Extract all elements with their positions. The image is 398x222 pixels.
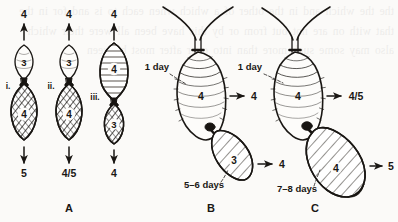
panel-b-main-body-label: 4 (198, 90, 204, 102)
panel-c: 4 1 day 4/5 4 7–8 days 5 C (238, 7, 394, 214)
panel-b-main-time-label: 1 day (145, 61, 170, 72)
panel-a-pair-iii: 4 4 3 iii. 4 (90, 8, 128, 179)
panel-b-bud-arrow-label: 4 (279, 158, 285, 170)
developmental-stages-diagram: 4 3 4 i. 5 4 3 (0, 0, 398, 222)
panel-c-letter: C (311, 202, 319, 214)
panel-a-pair-ii-top-label: 4 (66, 8, 72, 20)
panel-a: 4 3 4 i. 5 4 3 (6, 8, 128, 214)
panel-a-pair-iii-upper-label: 4 (111, 64, 117, 75)
panel-b-antenna-right (200, 7, 233, 40)
panel-a-letter: A (65, 202, 73, 214)
panel-a-pair-i-upper-label: 3 (21, 57, 26, 68)
panel-c-main-arrow-label: 4/5 (349, 90, 364, 102)
panel-a-pair-iii-roman-label: iii. (90, 92, 99, 102)
panel-c-main-time-label: 1 day (238, 61, 263, 72)
panel-a-pair-ii-lower-label: 4 (66, 109, 72, 120)
panel-b-bud-time-label: 5–6 days (184, 179, 224, 190)
panel-a-pair-ii-roman-label: ii. (47, 81, 54, 91)
panel-a-pair-i-lower-label: 4 (21, 109, 27, 120)
panel-a-pair-iii-bottom-label: 4 (111, 167, 117, 179)
panel-a-pair-ii: 4 3 4 ii. 4/5 (47, 8, 82, 179)
panel-a-pair-ii-bottom-label: 4/5 (62, 167, 77, 179)
panel-c-antenna-right (297, 7, 330, 40)
panel-a-pair-ii-upper-label: 3 (66, 57, 71, 68)
panel-b-main-arrow-label: 4 (251, 90, 257, 102)
panel-c-bud-arrow-label: 5 (388, 160, 394, 172)
panel-b-antenna-left (163, 7, 196, 40)
panel-a-pair-iii-lower-label: 3 (111, 119, 116, 130)
panel-c-main-body-label: 4 (295, 90, 301, 102)
panel-c-bud-label: 4 (333, 162, 339, 174)
panel-c-bud-time-label: 7–8 days (277, 183, 317, 194)
panel-a-pair-i-roman-label: i. (6, 81, 11, 91)
panel-a-pair-i-top-label: 4 (21, 8, 27, 20)
panel-a-pair-i-bottom-label: 5 (21, 167, 27, 179)
panel-b-letter: B (207, 202, 215, 214)
panel-c-antenna-left (262, 8, 293, 40)
panel-a-pair-i: 4 3 4 i. 5 (6, 8, 37, 179)
panel-a-pair-iii-top-label: 4 (111, 8, 117, 20)
panel-b-bud-label: 3 (231, 155, 237, 166)
panel-b: 4 1 day 4 3 5–6 days 4 B (145, 7, 285, 214)
